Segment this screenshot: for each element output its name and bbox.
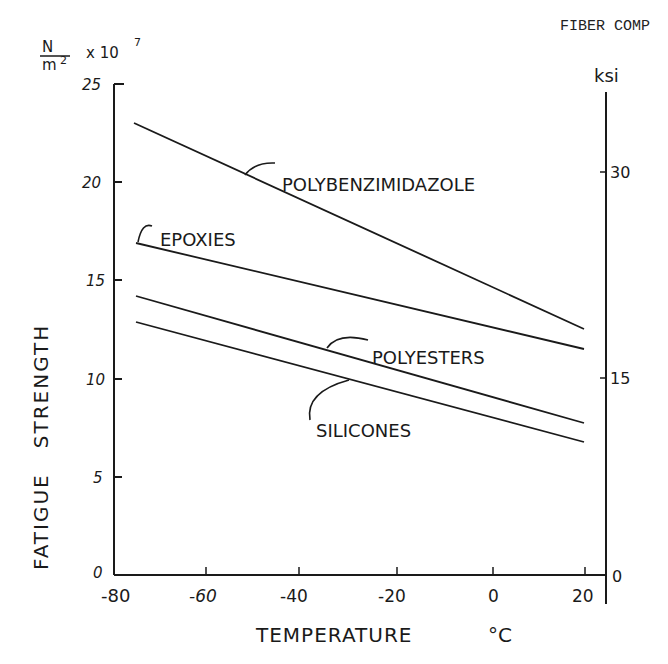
leader-arrows (138, 163, 368, 420)
svg-text:2: 2 (60, 54, 67, 67)
y-tick-label: 20 (82, 174, 101, 192)
x-tick-label: 0 (488, 586, 499, 606)
x-tick-label: 20 (572, 586, 594, 606)
pbi-leader-icon (245, 163, 275, 175)
y-tick-label: 0 (93, 564, 103, 582)
left-y-axis: 25 20 15 10 5 0 (82, 76, 124, 582)
label-silicones: SILICONES (316, 420, 411, 441)
silicones-leader-icon (309, 380, 349, 420)
svg-text:x 10: x 10 (86, 44, 119, 62)
line-polybenzimidazole (134, 123, 584, 329)
x-tick-label: -80 (101, 585, 130, 606)
y-tick-label: 15 (86, 272, 105, 290)
svg-text:m: m (42, 56, 57, 74)
right-axis-unit: ksi (594, 65, 619, 86)
y-tick-label: 10 (86, 371, 105, 389)
epoxies-leader-icon (138, 225, 152, 242)
x-tick-label: -20 (378, 586, 406, 606)
line-polyesters (136, 296, 584, 423)
x-axis-title: TEMPERATURE (255, 623, 412, 647)
y-axis-title: FATIGUE STRENGTH (29, 324, 53, 570)
running-title: FIBER COMP (560, 18, 650, 35)
y-tick-label: 25 (82, 76, 101, 94)
series-lines (134, 123, 584, 442)
fatigue-strength-chart: FIBER COMP N m 2 x 10 7 25 20 15 10 5 0 … (0, 0, 668, 664)
label-polybenzimidazole: POLYBENZIMIDAZOLE (282, 174, 475, 195)
y2-tick-label: 0 (612, 567, 622, 586)
x-axis-unit: °C (488, 623, 512, 647)
svg-text:N: N (42, 38, 53, 56)
right-y-axis: ksi 30 15 0 (594, 65, 630, 604)
polyesters-leader-icon (327, 337, 368, 348)
label-polyesters: POLYESTERS (372, 347, 485, 368)
label-epoxies: EPOXIES (160, 229, 236, 250)
y-units-label: N m 2 x 10 7 (40, 36, 141, 74)
y2-tick-label: 30 (610, 163, 630, 182)
x-tick-label: -40 (280, 586, 308, 606)
line-epoxies (136, 243, 584, 349)
x-tick-label: -60 (189, 586, 217, 606)
x-axis: -80 -60 -40 -20 0 20 (101, 567, 606, 606)
y-tick-label: 5 (93, 469, 103, 487)
y2-tick-label: 15 (610, 369, 630, 388)
svg-text:7: 7 (134, 36, 141, 49)
